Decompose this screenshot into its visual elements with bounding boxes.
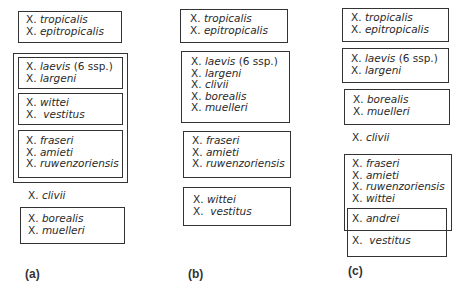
genus: X. — [191, 78, 202, 90]
species-name: largeni — [365, 64, 401, 76]
species-name: borealis — [205, 90, 247, 102]
genus: X. — [26, 72, 37, 84]
genus: X. — [191, 90, 202, 102]
species-name: tropicalis — [365, 11, 413, 23]
species-name: fraseri — [40, 134, 74, 146]
species-list: X. laevis (6 ssp.) X. largeni X. clivii … — [191, 56, 278, 114]
species-name: laevis — [40, 60, 70, 72]
species-name: clivii — [42, 189, 66, 201]
genus: X. — [26, 13, 37, 25]
species-name: vestitus — [369, 234, 410, 246]
genus: X. — [352, 157, 363, 169]
species-name: vestitus — [43, 108, 84, 120]
genus: X. — [26, 134, 37, 146]
genus: X. — [353, 105, 364, 117]
genus: X. — [192, 134, 203, 146]
species-name: epitropicalis — [40, 25, 104, 37]
species-vestitus: X. vestitus — [352, 235, 411, 247]
genus: X. — [28, 224, 39, 236]
genus: X. — [191, 67, 202, 79]
genus: X. — [351, 11, 362, 23]
species-name: muelleri — [367, 105, 410, 117]
species-name: andrei — [366, 212, 399, 224]
species-name: borealis — [367, 93, 409, 105]
panel-label-a: (a) — [25, 267, 40, 281]
species-name: ruwenzoriensis — [40, 157, 119, 169]
species-name: wittei — [207, 193, 236, 205]
species-name: clivii — [366, 131, 390, 143]
genus: X. — [192, 146, 203, 158]
genus: X. — [28, 212, 39, 224]
species-name: wittei — [366, 192, 395, 204]
species-list: X. wittei X. vestitus — [193, 194, 252, 217]
species-name: amieti — [206, 146, 239, 158]
species-list: X. fraseri X. amieti X. ruwenzoriensis X… — [352, 158, 445, 204]
species-list: X. wittei X. vestitus — [26, 97, 85, 120]
genus: X. — [351, 64, 362, 76]
species-name: wittei — [40, 96, 69, 108]
species-list: X. borealis X. muelleri — [28, 213, 85, 236]
panel-label-c: (c) — [348, 264, 363, 278]
species-list: X. fraseri X. amieti X. ruwenzoriensis — [26, 135, 119, 170]
species-list: X. fraseri X. amieti X. ruwenzoriensis — [192, 135, 285, 170]
genus: X. — [353, 93, 364, 105]
genus: X. — [192, 157, 203, 169]
species-list: X. laevis (6 ssp.) X. largeni — [351, 53, 438, 76]
species-name: muelleri — [205, 101, 248, 113]
species-name: laevis — [365, 52, 395, 64]
genus: X. — [352, 180, 363, 192]
genus: X. — [352, 131, 363, 143]
species-name: ruwenzoriensis — [206, 157, 285, 169]
genus: X. — [193, 193, 204, 205]
species-list: X. laevis (6 ssp.) X. largeni — [26, 61, 113, 84]
species-name: fraseri — [206, 134, 240, 146]
genus: X. — [351, 23, 362, 35]
species-name: vestitus — [210, 205, 251, 217]
ungrouped-species-clivii: X. clivii — [28, 190, 66, 202]
species-name: largeni — [40, 72, 76, 84]
species-name: borealis — [42, 212, 84, 224]
subspecies-note: (6 ssp.) — [399, 52, 438, 64]
species-name: laevis — [205, 55, 235, 67]
species-name: epitropicalis — [204, 24, 268, 36]
species-name: epitropicalis — [365, 23, 429, 35]
species-list: X. tropicalis X. epitropicalis — [190, 13, 268, 36]
genus: X. — [26, 157, 37, 169]
species-name: ruwenzoriensis — [366, 180, 445, 192]
subspecies-note: (6 ssp.) — [239, 55, 278, 67]
genus: X. — [26, 146, 37, 158]
genus: X. — [26, 60, 37, 72]
genus: X. — [352, 234, 363, 246]
genus: X. — [26, 96, 37, 108]
genus: X. — [352, 169, 363, 181]
genus: X. — [352, 212, 363, 224]
overlap-species-andrei: X. andrei — [352, 213, 399, 225]
genus: X. — [190, 12, 201, 24]
species-name: tropicalis — [40, 13, 88, 25]
species-name: amieti — [366, 169, 399, 181]
genus: X. — [351, 52, 362, 64]
species-name: largeni — [205, 67, 241, 79]
ungrouped-species-clivii: X. clivii — [352, 132, 390, 144]
genus: X. — [191, 101, 202, 113]
species-name: muelleri — [42, 224, 85, 236]
species-list: X. tropicalis X. epitropicalis — [26, 14, 104, 37]
species-list: X. borealis X. muelleri — [353, 94, 410, 117]
genus: X. — [26, 108, 37, 120]
genus: X. — [190, 24, 201, 36]
species-name: amieti — [40, 146, 73, 158]
species-name: clivii — [205, 78, 229, 90]
species-name: tropicalis — [204, 12, 252, 24]
species-list: X. tropicalis X. epitropicalis — [351, 12, 429, 35]
genus: X. — [28, 189, 39, 201]
subspecies-note: (6 ssp.) — [74, 60, 113, 72]
genus: X. — [352, 192, 363, 204]
panel-label-b: (b) — [188, 267, 203, 281]
genus: X. — [193, 205, 204, 217]
genus: X. — [191, 55, 202, 67]
genus: X. — [26, 25, 37, 37]
species-name: fraseri — [366, 157, 400, 169]
